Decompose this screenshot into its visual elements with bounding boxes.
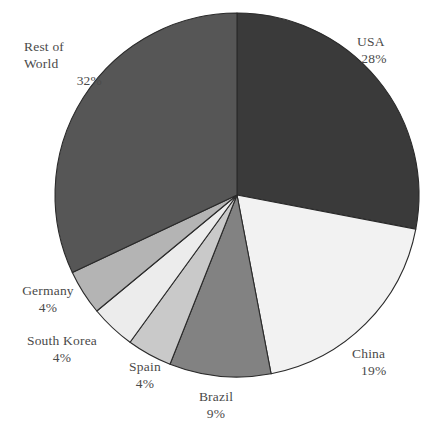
- pie-label-germany-name: Germany: [6, 282, 90, 299]
- pie-label-spain-value: 4%: [119, 375, 171, 392]
- pie-label-china: China 19%: [352, 345, 386, 379]
- pie-label-germany: Germany 4%: [6, 282, 90, 316]
- pie-label-spain-name: Spain: [119, 358, 171, 375]
- pie-label-china-value: 19%: [361, 362, 386, 379]
- pie-label-rest-of-world-name-line1: Rest of: [24, 38, 102, 55]
- pie-label-rest-of-world-name-line2: World: [24, 55, 102, 72]
- pie-chart-figure: USA 28% China 19% Brazil 9% Spain 4% Sou…: [0, 0, 431, 435]
- pie-label-south-korea-value: 4%: [8, 349, 116, 366]
- pie-label-usa-value: 28%: [357, 50, 387, 67]
- pie-label-usa-name: USA: [357, 33, 385, 50]
- pie-label-south-korea-name: South Korea: [8, 332, 116, 349]
- pie-label-china-name: China: [352, 345, 386, 362]
- pie-label-rest-of-world: Rest of World 32%: [24, 38, 102, 89]
- pie-label-brazil-name: Brazil: [186, 388, 246, 405]
- pie-label-germany-value: 4%: [6, 299, 90, 316]
- pie-slice-group: [55, 13, 419, 377]
- pie-label-spain: Spain 4%: [119, 358, 171, 392]
- pie-label-south-korea: South Korea 4%: [8, 332, 116, 366]
- pie-label-brazil-value: 9%: [186, 405, 246, 422]
- pie-label-rest-of-world-value: 32%: [24, 72, 102, 89]
- pie-slice-usa: [237, 13, 419, 229]
- pie-label-usa: USA 28%: [357, 33, 387, 67]
- pie-label-brazil: Brazil 9%: [186, 388, 246, 422]
